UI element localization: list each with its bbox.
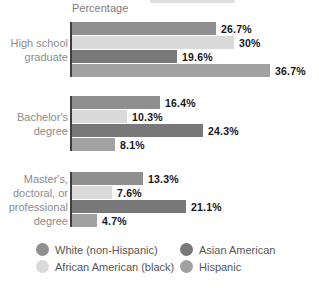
- bar-row: 4.7%: [70, 214, 319, 227]
- category-label-high-school-graduate: High schoolgraduate: [0, 36, 68, 64]
- category-label-line: degree: [0, 214, 68, 228]
- bar-value-label: 24.3%: [208, 125, 239, 137]
- category-label-line: Master's,: [0, 172, 68, 186]
- bar-asian-american: [71, 124, 203, 137]
- legend-item-hispanic: Hispanic: [180, 259, 275, 274]
- axis-line: [70, 22, 72, 77]
- category-label-line: professional: [0, 200, 68, 214]
- axis-title: Percentage: [72, 2, 128, 14]
- bar-group-high-school-graduate: 26.7%30%19.6%36.7%: [70, 22, 319, 78]
- bar-asian-american: [71, 50, 177, 63]
- bar-value-label: 36.7%: [275, 65, 306, 77]
- bar-row: 19.6%: [70, 50, 319, 63]
- bar-row: 16.4%: [70, 96, 319, 109]
- legend-dot-hispanic: [180, 260, 193, 273]
- legend-dot-white-non-hispanic: [36, 243, 49, 256]
- legend-label: Hispanic: [199, 261, 241, 273]
- bar-value-label: 4.7%: [102, 215, 127, 227]
- bar-hispanic: [71, 214, 97, 227]
- legend-label: White (non-Hispanic): [55, 244, 158, 256]
- bar-hispanic: [71, 64, 270, 77]
- bar-asian-american: [71, 200, 186, 213]
- bar-white-non-hispanic: [71, 96, 160, 109]
- legend-dot-african-american-black: [36, 260, 49, 273]
- cropped-title-remnant: [150, 0, 235, 3]
- bar-value-label: 19.6%: [182, 51, 213, 63]
- bar-value-label: 21.1%: [191, 201, 222, 213]
- bar-row: 10.3%: [70, 110, 319, 123]
- bar-row: 21.1%: [70, 200, 319, 213]
- bar-group-master-s-doctoral-or-professional-degree: 13.3%7.6%21.1%4.7%: [70, 172, 319, 228]
- bar-hispanic: [71, 138, 115, 151]
- bar-value-label: 30%: [239, 37, 261, 49]
- bar-row: 30%: [70, 36, 319, 49]
- category-label-line: graduate: [0, 50, 68, 64]
- bar-value-label: 10.3%: [132, 111, 163, 123]
- bar-african-american-black: [71, 36, 234, 49]
- bar-row: 7.6%: [70, 186, 319, 199]
- bar-value-label: 7.6%: [117, 187, 142, 199]
- legend: White (non-Hispanic)Asian AmericanAfrica…: [36, 242, 275, 274]
- legend-item-african-american-black: African American (black): [36, 259, 180, 274]
- legend-dot-asian-american: [180, 243, 193, 256]
- bar-value-label: 8.1%: [120, 139, 145, 151]
- bar-row: 13.3%: [70, 172, 319, 185]
- category-label-bachelor-s-degree: Bachelor'sdegree: [0, 110, 68, 138]
- bar-white-non-hispanic: [71, 172, 143, 185]
- category-label-line: doctoral, or: [0, 186, 68, 200]
- category-label-line: degree: [0, 124, 68, 138]
- bar-white-non-hispanic: [71, 22, 216, 35]
- bar-row: 24.3%: [70, 124, 319, 137]
- category-label-master-s-doctoral-or-professional-degree: Master's,doctoral, orprofessionaldegree: [0, 172, 68, 228]
- bar-value-label: 13.3%: [148, 173, 179, 185]
- legend-label: African American (black): [55, 261, 174, 273]
- bar-value-label: 16.4%: [165, 97, 196, 109]
- category-label-line: Bachelor's: [0, 110, 68, 124]
- axis-line: [70, 96, 72, 151]
- bar-value-label: 26.7%: [221, 23, 252, 35]
- bar-row: 8.1%: [70, 138, 319, 151]
- bar-african-american-black: [71, 186, 112, 199]
- category-label-line: High school: [0, 36, 68, 50]
- bar-african-american-black: [71, 110, 127, 123]
- legend-item-white-non-hispanic: White (non-Hispanic): [36, 242, 180, 257]
- legend-item-asian-american: Asian American: [180, 242, 275, 257]
- bar-row: 36.7%: [70, 64, 319, 77]
- bar-row: 26.7%: [70, 22, 319, 35]
- bar-chart-figure: Percentage 26.7%30%19.6%36.7%16.4%10.3%2…: [0, 0, 319, 288]
- axis-line: [70, 172, 72, 227]
- bar-group-bachelor-s-degree: 16.4%10.3%24.3%8.1%: [70, 96, 319, 152]
- legend-label: Asian American: [199, 244, 275, 256]
